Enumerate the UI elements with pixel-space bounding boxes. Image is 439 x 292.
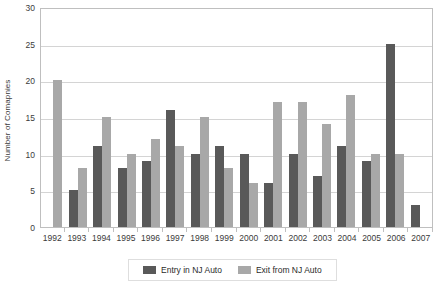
- bar: [346, 95, 355, 227]
- plot-area: [40, 8, 433, 228]
- x-axis-tick-label: 1997: [163, 233, 188, 247]
- x-axis-tick-mark: [89, 228, 114, 232]
- x-axis-tick-label: 2004: [335, 233, 360, 247]
- x-axis-tick-mark: [212, 228, 237, 232]
- bar: [78, 168, 87, 227]
- x-axis-tick-mark: [114, 228, 139, 232]
- x-axis-tick-label: 2001: [261, 233, 286, 247]
- bar-group: [139, 9, 163, 227]
- bar: [371, 154, 380, 227]
- bar-group: [163, 9, 187, 227]
- x-axis-tick-mark: [335, 228, 360, 232]
- bar: [215, 146, 224, 227]
- y-axis-tick-label: 10: [26, 150, 35, 160]
- x-axis-tick-mark: [310, 228, 335, 232]
- x-axis-tick-mark: [261, 228, 286, 232]
- bar: [166, 110, 175, 227]
- x-axis-tick-label: 1998: [187, 233, 212, 247]
- x-axis-tick-label: 2005: [359, 233, 384, 247]
- x-axis-tick-label: 2000: [237, 233, 262, 247]
- bar-group: [90, 9, 114, 227]
- legend-swatch-exit-icon: [238, 266, 251, 274]
- legend-item-exit: Exit from NJ Auto: [238, 265, 322, 275]
- bar: [127, 154, 136, 227]
- y-axis-tick-labels: 051015202530: [16, 8, 38, 228]
- bar-chart: Number of Comapnies 051015202530 1992199…: [0, 0, 439, 292]
- x-axis-tick-label: 2007: [408, 233, 433, 247]
- x-axis-tick-label: 2006: [384, 233, 409, 247]
- x-axis-tick-marks: [40, 228, 433, 232]
- bar-group: [334, 9, 358, 227]
- x-axis-tick-label: 2003: [310, 233, 335, 247]
- x-axis-tick-label: 2002: [286, 233, 311, 247]
- x-axis-tick-mark: [163, 228, 188, 232]
- y-axis-title-text: Number of Comapnies: [4, 79, 13, 161]
- x-axis-tick-label: 1995: [114, 233, 139, 247]
- x-axis-tick-label: 1993: [65, 233, 90, 247]
- bar: [322, 124, 331, 227]
- x-axis-tick-mark: [359, 228, 384, 232]
- x-axis-tick-mark: [40, 228, 65, 232]
- bar-group: [285, 9, 309, 227]
- x-axis-tick-label: 1999: [212, 233, 237, 247]
- x-axis-tick-labels: 1992199319941995199619971998199920002001…: [40, 233, 433, 247]
- bars-layer: [41, 9, 432, 227]
- bar-group: [359, 9, 383, 227]
- legend-swatch-entry-icon: [143, 266, 156, 274]
- legend-label-exit: Exit from NJ Auto: [256, 265, 322, 275]
- bar: [191, 154, 200, 227]
- bar: [313, 176, 322, 227]
- bar: [142, 161, 151, 227]
- bar: [249, 183, 258, 227]
- bar: [411, 205, 420, 227]
- bar: [264, 183, 273, 227]
- bar: [224, 168, 233, 227]
- x-axis-tick-mark: [138, 228, 163, 232]
- bar: [273, 102, 282, 227]
- bar: [289, 154, 298, 227]
- x-axis-tick-mark: [384, 228, 409, 232]
- x-axis-tick-label: 1994: [89, 233, 114, 247]
- y-axis-tick-label: 5: [30, 186, 35, 196]
- y-axis-tick-label: 30: [26, 3, 35, 13]
- bar-group: [212, 9, 236, 227]
- y-axis-tick-label: 15: [26, 113, 35, 123]
- bar: [175, 146, 184, 227]
- bar: [386, 44, 395, 227]
- bar: [151, 139, 160, 227]
- legend-item-entry: Entry in NJ Auto: [143, 265, 222, 275]
- x-axis-tick-label: 1996: [138, 233, 163, 247]
- y-axis-tick-label: 0: [30, 223, 35, 233]
- bar-group: [237, 9, 261, 227]
- bar: [118, 168, 127, 227]
- chart-legend: Entry in NJ Auto Exit from NJ Auto: [128, 259, 337, 281]
- bar: [200, 117, 209, 227]
- bar-group: [261, 9, 285, 227]
- bar-group: [408, 9, 432, 227]
- bar-group: [65, 9, 89, 227]
- bar: [395, 154, 404, 227]
- bar: [69, 190, 78, 227]
- bar: [93, 146, 102, 227]
- legend-label-entry: Entry in NJ Auto: [161, 265, 222, 275]
- bar: [53, 80, 62, 227]
- x-axis-tick-mark: [286, 228, 311, 232]
- bar: [102, 117, 111, 227]
- x-axis-tick-mark: [65, 228, 90, 232]
- bar-group: [188, 9, 212, 227]
- y-axis-title: Number of Comapnies: [0, 0, 16, 240]
- y-axis-tick-label: 20: [26, 76, 35, 86]
- bar-group: [310, 9, 334, 227]
- x-axis-tick-mark: [408, 228, 433, 232]
- bar-group: [114, 9, 138, 227]
- x-axis-tick-mark: [187, 228, 212, 232]
- bar: [337, 146, 346, 227]
- bar: [362, 161, 371, 227]
- y-axis-tick-label: 25: [26, 40, 35, 50]
- bar-group: [41, 9, 65, 227]
- bar-group: [383, 9, 407, 227]
- bar: [298, 102, 307, 227]
- bar: [240, 154, 249, 227]
- x-axis-tick-label: 1992: [40, 233, 65, 247]
- x-axis-tick-mark: [237, 228, 262, 232]
